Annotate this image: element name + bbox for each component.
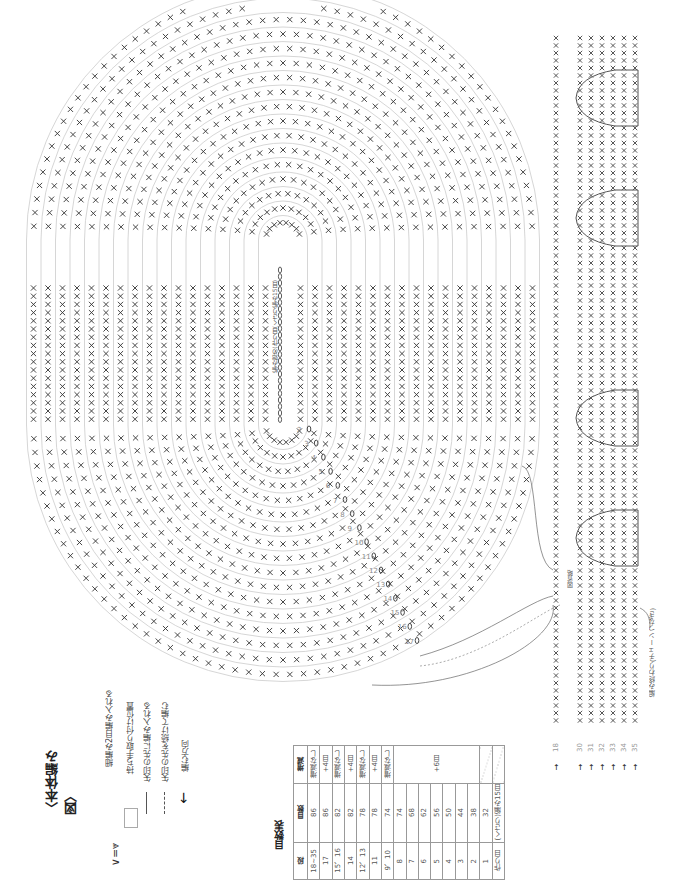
stitch-x xyxy=(515,376,520,381)
stitch-x xyxy=(264,450,269,455)
stitch-x xyxy=(209,498,214,503)
stitch-x xyxy=(289,438,294,443)
stitch-x xyxy=(200,17,205,22)
strip-stitch xyxy=(611,478,615,482)
stitch-x xyxy=(335,166,340,171)
stitch-x xyxy=(399,351,404,356)
stitch-x xyxy=(152,163,157,168)
stitch-x xyxy=(31,400,36,405)
round-guide xyxy=(259,216,308,450)
strip-stitch xyxy=(611,126,615,130)
stitch-x xyxy=(405,21,410,26)
row-direction-arrow: ↑ xyxy=(553,763,560,772)
table-cell: +4目 xyxy=(320,746,332,784)
strip-stitch xyxy=(578,238,582,242)
table-cell: 17 xyxy=(320,843,332,880)
stitch-x xyxy=(221,55,226,60)
strip-stitch xyxy=(578,718,582,722)
stitch-x xyxy=(414,408,419,413)
strip-stitch xyxy=(622,553,626,557)
stitch-x xyxy=(93,462,98,467)
round-number: 11 xyxy=(362,553,371,561)
stitch-x xyxy=(477,108,482,113)
round-number: 13 xyxy=(376,581,385,589)
stitch-x xyxy=(312,552,317,557)
stitch-x xyxy=(369,158,374,163)
stitch-x xyxy=(68,107,73,112)
stitch-x xyxy=(287,556,292,561)
stitch-x xyxy=(170,46,175,51)
strip-stitch xyxy=(611,621,615,625)
stitch-x xyxy=(338,574,343,579)
strip-stitch xyxy=(611,201,615,205)
stitch-x xyxy=(263,417,268,422)
stitch-x xyxy=(370,408,375,413)
table-cell: 12、13 xyxy=(357,843,369,880)
round-number: 17 xyxy=(405,638,414,646)
strip-stitch xyxy=(554,711,558,715)
stitch-x xyxy=(234,318,239,323)
stitch-x xyxy=(270,482,275,487)
table-cell: 11 xyxy=(369,843,381,880)
stitch-x xyxy=(276,469,281,474)
stitch-x xyxy=(497,197,502,202)
strip-stitch xyxy=(589,658,593,662)
stitch-x xyxy=(416,577,421,582)
stitch-x xyxy=(129,57,134,62)
stitch-x xyxy=(348,12,353,17)
stitch-x xyxy=(177,482,182,487)
stitch-x xyxy=(385,417,390,422)
stitch-x xyxy=(161,310,166,315)
stitch-x xyxy=(78,197,83,202)
stitch-x xyxy=(443,318,448,323)
stitch-x xyxy=(103,367,108,372)
slip-stitch-marker xyxy=(365,539,369,545)
strip-stitch xyxy=(622,673,626,677)
stitch-x xyxy=(168,120,173,125)
stitch-x xyxy=(500,436,505,441)
stitch-x xyxy=(248,343,253,348)
strip-stitch xyxy=(589,576,593,580)
stitch-x xyxy=(457,318,462,323)
strip-stitch xyxy=(578,246,582,250)
stitch-x xyxy=(263,351,268,356)
stitch-x xyxy=(237,111,242,116)
stitch-x xyxy=(64,197,69,202)
stitch-x xyxy=(314,49,319,54)
table-cell: 増減なし xyxy=(332,746,344,784)
stitch-x xyxy=(500,541,505,546)
stitch-x xyxy=(253,221,258,226)
stitch-x xyxy=(370,343,375,348)
stitch-x xyxy=(254,33,259,38)
stitch-x xyxy=(501,376,506,381)
stitch-x xyxy=(219,392,224,397)
stitch-x xyxy=(200,490,205,495)
strip-stitch xyxy=(578,351,582,355)
strip-stitch xyxy=(611,103,615,107)
stitch-x xyxy=(311,185,316,190)
strip-stitch xyxy=(589,621,593,625)
strip-stitch xyxy=(622,321,626,325)
strip-stitch xyxy=(633,523,637,527)
strip-stitch xyxy=(633,358,637,362)
stitch-x xyxy=(92,586,97,591)
stitch-x xyxy=(442,66,447,71)
strip-stitch xyxy=(578,598,582,602)
stitch-x xyxy=(206,434,211,439)
strip-stitch xyxy=(622,366,626,370)
stitch-x xyxy=(31,302,36,307)
stitch-x xyxy=(55,170,60,175)
stitch-x xyxy=(263,335,268,340)
stitch-x xyxy=(225,116,230,121)
stitch-x xyxy=(385,351,390,356)
stitch-x xyxy=(449,54,454,59)
strip-stitch xyxy=(633,478,637,482)
stitch-x xyxy=(111,512,116,517)
stitch-x xyxy=(228,453,233,458)
stitch-x xyxy=(161,392,166,397)
stitch-x xyxy=(438,461,443,466)
stitch-x xyxy=(410,520,415,525)
stitch-x xyxy=(486,335,491,340)
strip-stitch xyxy=(589,291,593,295)
strip-stitch xyxy=(589,493,593,497)
